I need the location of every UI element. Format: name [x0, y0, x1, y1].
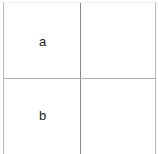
cell-text: a	[39, 34, 46, 49]
cell-text: b	[39, 108, 46, 123]
grid-table: a b	[3, 2, 156, 154]
cell-r0-c0[interactable]: a	[4, 3, 81, 79]
cell-r1-c0[interactable]: b	[4, 79, 81, 154]
row-divider	[4, 78, 155, 79]
cell-r0-c1[interactable]	[81, 3, 156, 79]
cell-r1-c1[interactable]	[81, 79, 156, 154]
